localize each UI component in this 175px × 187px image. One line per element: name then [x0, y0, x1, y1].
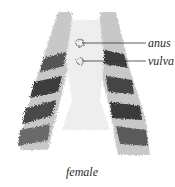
tail-illustration [0, 0, 175, 187]
label-vulva: vulva [148, 55, 174, 67]
label-anus: anus [148, 37, 171, 49]
caption: female [66, 165, 98, 180]
right-leg-stripes [98, 12, 150, 155]
